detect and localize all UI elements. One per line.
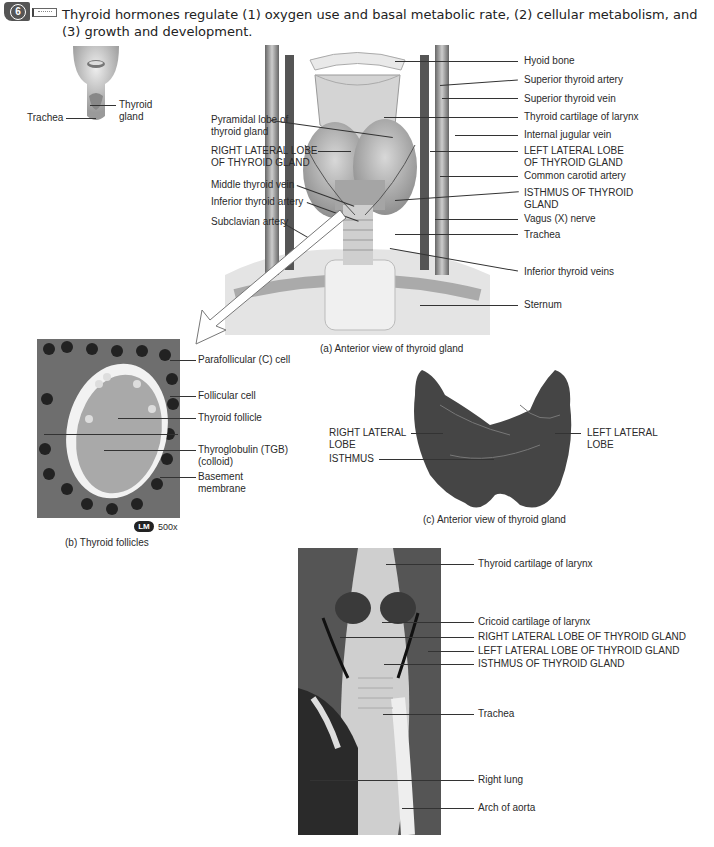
leader-line	[160, 477, 196, 478]
label-isthmus: ISTHMUS OF THYROIDGLAND	[524, 187, 633, 211]
label-superior-thyroid-vein: Superior thyroid vein	[524, 93, 616, 105]
lm-badge: LM	[134, 521, 154, 532]
leader-line	[340, 637, 474, 638]
follicle-micrograph	[37, 339, 180, 518]
label-common-carotid-artery: Common carotid artery	[524, 170, 626, 182]
leader-line	[435, 219, 518, 220]
badge-number: 6	[10, 4, 26, 20]
label-d-right-lateral-lobe: RIGHT LATERAL LOBE OF THYROID GLAND	[478, 631, 686, 643]
leader-line	[318, 151, 351, 152]
leader-line	[118, 418, 196, 419]
leader-line	[395, 234, 518, 235]
leader-line	[386, 564, 474, 565]
locator-illustration	[65, 46, 127, 124]
label-left-lateral-lobe: LEFT LATERAL LOBEOF THYROID GLAND	[524, 145, 624, 169]
label-right-lateral-lobe-c: RIGHT LATERALLOBE	[329, 427, 406, 451]
label-d-cricoid-cartilage: Cricoid cartilage of larynx	[478, 616, 590, 628]
label-vagus-nerve: Vagus (X) nerve	[524, 213, 596, 225]
label-thyroid-cartilage: Thyroid cartilage of larynx	[524, 111, 639, 123]
leader-line	[430, 151, 518, 152]
label-d-arch-of-aorta: Arch of aorta	[478, 802, 535, 814]
leader-line	[411, 433, 443, 434]
caption-b: (b) Thyroid follicles	[65, 537, 149, 548]
label-follicular-cell: Follicular cell	[198, 390, 256, 402]
leader-line	[170, 360, 196, 361]
key-concept-icon	[32, 8, 57, 17]
label-d-trachea: Trachea	[478, 708, 514, 720]
label-d-right-lung: Right lung	[478, 774, 523, 786]
label-d-thyroid-cartilage: Thyroid cartilage of larynx	[478, 558, 593, 570]
leader-line	[428, 651, 474, 652]
label-d-left-lateral-lobe: LEFT LATERAL LOBE OF THYROID GLAND	[478, 645, 679, 657]
label-left-lateral-lobe-c: LEFT LATERALLOBE	[587, 427, 658, 451]
label-trachea: Trachea	[27, 112, 63, 124]
callout-arrow	[190, 210, 360, 350]
leader-line	[384, 117, 518, 118]
leader-line	[555, 433, 581, 434]
label-sternum: Sternum	[524, 299, 562, 311]
leader-line	[90, 105, 116, 106]
leader-line	[420, 305, 518, 306]
leader-line	[455, 135, 518, 136]
leader-line	[66, 118, 96, 119]
label-inferior-thyroid-veins: Inferior thyroid veins	[524, 266, 614, 278]
label-d-isthmus: ISTHMUS OF THYROID GLAND	[478, 658, 625, 670]
label-thyroglobulin: Thyroglobulin (TGB)(colloid)	[198, 444, 288, 468]
thyroid-gland-photo	[410, 365, 580, 515]
label-pyramidal-lobe: Pyramidal lobe ofthyroid gland	[211, 114, 288, 138]
leader-line	[395, 61, 518, 62]
label-isthmus-c: ISTHMUS	[329, 453, 374, 465]
label-hyoid-bone: Hyoid bone	[524, 55, 575, 67]
leader-line	[383, 714, 474, 715]
label-superior-thyroid-artery: Superior thyroid artery	[524, 74, 623, 86]
leader-line	[44, 434, 178, 435]
leader-line	[104, 450, 196, 451]
leader-line	[440, 176, 518, 177]
label-right-lateral-lobe: RIGHT LATERAL LOBEOF THYROID GLAND	[211, 145, 318, 169]
label-parafollicular-cell: Parafollicular (C) cell	[198, 354, 290, 366]
leader-line	[442, 98, 518, 99]
label-thyroid-follicle: Thyroid follicle	[198, 412, 262, 424]
caption-c: (c) Anterior view of thyroid gland	[423, 514, 566, 525]
leader-line	[170, 396, 196, 397]
label-inferior-thyroid-artery: Inferior thyroid artery	[211, 196, 303, 208]
leader-line	[402, 808, 474, 809]
intro-text: Thyroid hormones regulate (1) oxygen use…	[62, 6, 702, 40]
leader-line	[379, 459, 494, 460]
magnification-label: 500x	[158, 521, 178, 533]
label-basement-membrane: Basementmembrane	[198, 471, 246, 495]
label-middle-thyroid-vein: Middle thyroid vein	[211, 179, 294, 191]
label-internal-jugular-vein: Internal jugular vein	[524, 129, 611, 141]
leader-line	[384, 664, 474, 665]
cadaver-dissection-photo	[298, 548, 441, 835]
leader-line	[310, 780, 474, 781]
leader-line	[382, 622, 474, 623]
label-thyroid-gland: Thyroidgland	[119, 99, 152, 123]
label-trachea-a: Trachea	[524, 229, 560, 241]
section-number-badge: 6	[4, 2, 30, 21]
